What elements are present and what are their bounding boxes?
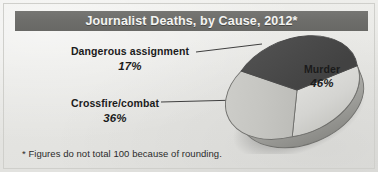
pie-label-dangerous-value: 17%	[66, 60, 194, 72]
pie-label-crossfire: Crossfire/combat 36%	[60, 97, 170, 124]
chart-footnote: * Figures do not total 100 because of ro…	[22, 148, 222, 159]
pie-label-murder: Murder 46%	[292, 63, 352, 89]
pie-label-crossfire-name: Crossfire/combat	[60, 97, 170, 109]
chart-title: Journalist Deaths, by Cause, 2012*	[15, 12, 368, 31]
pie-label-murder-value: 46%	[292, 77, 352, 89]
figure-container: Journalist Deaths, by Cause, 2012*	[0, 0, 378, 172]
pie-label-crossfire-value: 36%	[60, 112, 170, 124]
pie-label-murder-name: Murder	[292, 63, 352, 75]
pie-label-dangerous: Dangerous assignment 17%	[66, 45, 194, 72]
pie-label-dangerous-name: Dangerous assignment	[66, 45, 194, 57]
